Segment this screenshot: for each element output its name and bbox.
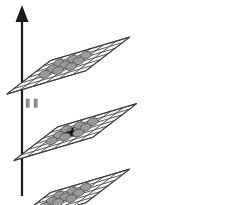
grid-layers-group [7, 37, 137, 205]
grid-plane-bottom [7, 169, 130, 205]
diagram-canvas: Stacked isometric grid layers with node … [0, 0, 229, 205]
axis-tick-2 [34, 99, 37, 108]
axis-arrowhead-icon [16, 5, 29, 22]
axis-tick-1 [26, 99, 29, 108]
stacked-layers-diagram [0, 0, 229, 205]
grid-plane-middle [14, 104, 137, 161]
axis-tick-pair [26, 99, 37, 108]
grid-plane-top [7, 37, 130, 94]
